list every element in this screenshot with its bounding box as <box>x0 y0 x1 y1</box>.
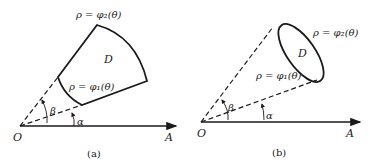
origin-label-b: O <box>197 127 206 140</box>
angle-beta-arc-a <box>42 100 47 123</box>
angle-alpha-arc-b <box>262 104 264 120</box>
caption-a: (a) <box>87 148 101 159</box>
region-label-a: D <box>103 53 113 66</box>
axis-end-label-b: A <box>345 127 354 140</box>
region-label-b: D <box>297 47 307 60</box>
outer-curve-label-a: ρ = φ₂(θ) <box>75 9 122 20</box>
beta-label-b: β <box>227 102 234 113</box>
polar-region-diagrams: O A D ρ = φ₂(θ) ρ = φ₁(θ) β α (a) O A D … <box>0 0 370 168</box>
inner-curve-label-b: ρ = φ₁(θ) <box>255 70 302 81</box>
beta-label-a: β <box>49 105 56 116</box>
inner-curve-label-a: ρ = φ₁(θ) <box>68 81 115 92</box>
region-boundary-a <box>58 25 147 105</box>
angle-alpha-arc-a <box>72 113 74 126</box>
origin-label-a: O <box>13 131 22 144</box>
figure-a: O A D ρ = φ₂(θ) ρ = φ₁(θ) β α (a) <box>13 9 176 159</box>
outer-curve-label-b: ρ = φ₂(θ) <box>312 27 359 38</box>
ray-beta-a <box>20 77 58 126</box>
alpha-label-a: α <box>77 116 84 127</box>
axis-end-label-a: A <box>164 131 173 144</box>
alpha-label-b: α <box>266 110 273 121</box>
figure-b: O A D ρ = φ₂(θ) ρ = φ₁(θ) β α (b) <box>197 17 360 158</box>
ray-alpha-b <box>201 80 317 122</box>
caption-b: (b) <box>272 147 286 158</box>
